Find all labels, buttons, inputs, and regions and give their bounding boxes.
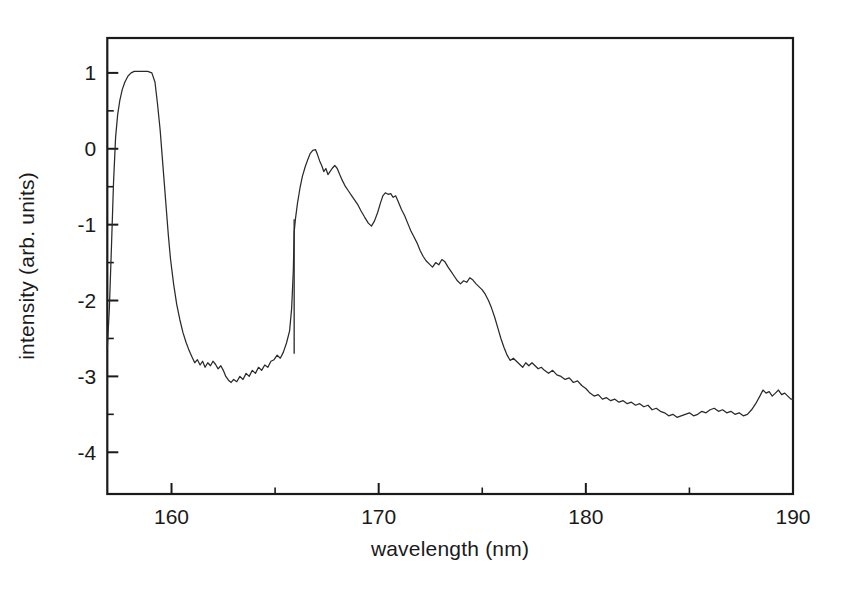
x-axis-tick-labels: 160170180190 — [154, 505, 811, 528]
y-tick-label: -4 — [78, 441, 97, 464]
x-axis-title: wavelength (nm) — [370, 537, 529, 560]
x-tick-label: 180 — [568, 505, 603, 528]
y-axis-tick-labels: 10-1-2-3-4 — [78, 61, 97, 463]
y-tick-label: 0 — [85, 137, 97, 160]
y-tick-label: -3 — [78, 365, 97, 388]
plot-frame — [107, 38, 793, 494]
y-axis-title: intensity (arb. units) — [15, 172, 38, 360]
x-tick-label: 160 — [154, 505, 189, 528]
figure-container: 10-1-2-3-4 160170180190 wavelength (nm) … — [0, 0, 842, 592]
spectrum-chart: 10-1-2-3-4 160170180190 wavelength (nm) … — [0, 0, 842, 592]
x-tick-label: 190 — [775, 505, 810, 528]
y-tick-label: 1 — [85, 61, 97, 84]
y-tick-label: -2 — [78, 289, 97, 312]
y-tick-label: -1 — [78, 213, 97, 236]
x-tick-label: 170 — [361, 505, 396, 528]
spectrum-data-curve — [107, 71, 793, 417]
